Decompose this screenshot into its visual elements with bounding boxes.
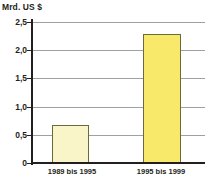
- y-tick-mark: [27, 22, 32, 23]
- y-tick-mark: [27, 50, 32, 51]
- y-tick-labels: 2,5 2,0 1,5 1,0 0,5 0: [0, 0, 27, 180]
- plot-area: [33, 22, 205, 163]
- bar-chart: Mrd. US $ 2,5 2,0 1,5 1,0 0,5 0 1989 bis…: [0, 0, 211, 180]
- bar-category-1: [143, 34, 181, 163]
- x-axis-line: [31, 162, 205, 164]
- y-tick-label: 1,5: [1, 73, 27, 83]
- y-axis-line: [31, 19, 33, 165]
- y-tick-label: 1,0: [1, 102, 27, 112]
- y-tick-mark: [27, 135, 32, 136]
- y-tick-mark: [27, 78, 32, 79]
- y-tick-label: 0,5: [1, 130, 27, 140]
- bar-category-0: [52, 125, 89, 163]
- y-tick-label: 2,5: [1, 17, 27, 27]
- gridline: [33, 22, 205, 23]
- y-tick-label: 2,0: [1, 45, 27, 55]
- y-tick-mark: [27, 163, 32, 164]
- y-tick-mark: [27, 107, 32, 108]
- x-axis-category-label-1: 1995 bis 1999: [111, 167, 211, 176]
- x-axis-category-label-0: 1989 bis 1995: [22, 167, 122, 176]
